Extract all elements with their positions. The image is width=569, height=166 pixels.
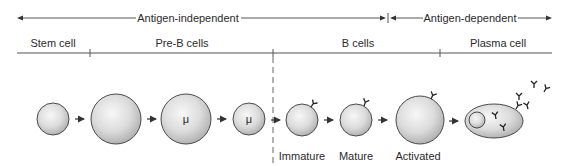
immature-b-cell [286, 104, 318, 136]
antigen-independent-label: Antigen-independent [137, 12, 239, 24]
stage-label-stem-cell: Stem cell [30, 37, 75, 49]
label-mature: Mature [339, 150, 373, 162]
antigen-dependent-label: Antigen-dependent [424, 12, 517, 24]
mu-chain-label: μ [183, 113, 189, 125]
mature-b-cell [340, 104, 372, 136]
stage-label-pre-b-cells: Pre-B cells [155, 37, 209, 49]
antibody-icon [523, 101, 531, 109]
label-immature: Immature [279, 150, 325, 162]
antibody-icon [541, 84, 550, 93]
arrow-right-icon [546, 16, 552, 21]
arrow-left-icon [390, 16, 396, 21]
pre-b-cell-1 [91, 94, 141, 144]
stem-cell [37, 103, 69, 135]
b-cell-development-diagram: Antigen-independent Antigen-dependent St… [0, 0, 569, 166]
mu-chain-label: μ [246, 113, 252, 125]
antibody-icon [516, 93, 522, 100]
label-activated: Activated [395, 150, 440, 162]
plasma-cell-nucleus [469, 112, 485, 128]
activated-b-cell [396, 96, 444, 144]
diagram-canvas: Antigen-independent Antigen-dependent St… [0, 0, 569, 166]
stage-label-plasma-cell: Plasma cell [470, 37, 526, 49]
stage-label-b-cells: B cells [342, 37, 375, 49]
antibody-icon [531, 81, 537, 88]
arrow-right-icon [380, 16, 386, 21]
arrow-left-icon [17, 16, 23, 21]
